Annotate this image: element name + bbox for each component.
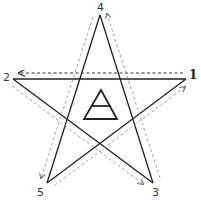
star-edge-4-5 [47, 15, 100, 183]
pentagram-diagram: 4 2 1 5 3 [0, 0, 201, 200]
star-edge-3-4 [100, 15, 153, 183]
arrow-2-to-3 [12, 86, 143, 184]
point-label-4: 4 [97, 1, 104, 14]
point-label-2: 2 [3, 71, 10, 84]
arrow-5-to-1 [55, 87, 185, 185]
air-triangle-icon [84, 90, 117, 119]
point-label-3: 3 [152, 186, 159, 199]
star-edge-2-3 [13, 79, 153, 183]
pentagram-star [13, 15, 186, 183]
arrow-3-to-4 [107, 14, 160, 178]
point-label-5: 5 [37, 186, 44, 199]
point-label-1: 1 [189, 68, 197, 82]
star-edge-5-1 [47, 79, 186, 183]
